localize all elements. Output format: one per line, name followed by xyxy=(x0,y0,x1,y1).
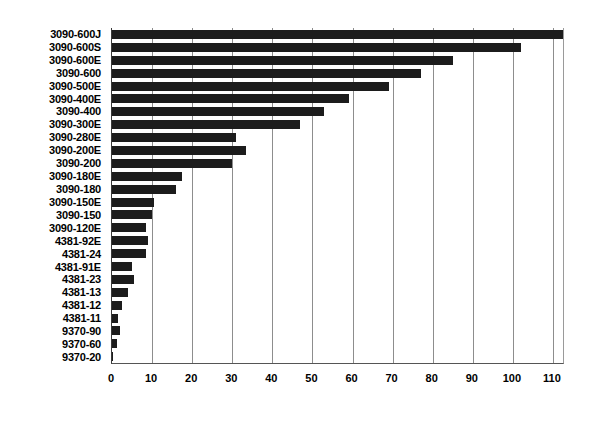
category-label: 3090-600E xyxy=(0,54,106,67)
bar xyxy=(112,262,132,271)
bar-row xyxy=(112,183,563,196)
bar xyxy=(112,172,182,181)
bar xyxy=(112,82,389,91)
bar xyxy=(112,339,117,348)
category-label: 4381-12 xyxy=(0,299,106,312)
bar xyxy=(112,120,300,129)
bar xyxy=(112,249,146,258)
bar-row xyxy=(112,157,563,170)
category-label: 3090-180 xyxy=(0,183,106,196)
x-tick-label: 70 xyxy=(385,372,397,384)
bar-series xyxy=(112,28,563,363)
category-label: 3090-120E xyxy=(0,222,106,235)
bar-row xyxy=(112,299,563,312)
bar-row xyxy=(112,221,563,234)
bar xyxy=(112,43,521,52)
bar xyxy=(112,198,154,207)
category-label: 3090-200E xyxy=(0,144,106,157)
category-label: 3090-600J xyxy=(0,28,106,41)
category-label: 4381-92E xyxy=(0,235,106,248)
bar-row xyxy=(112,41,563,54)
bar-row xyxy=(112,67,563,80)
bar xyxy=(112,159,232,168)
category-label: 3090-150E xyxy=(0,196,106,209)
bar xyxy=(112,94,349,103)
bar-row xyxy=(112,337,563,350)
x-tick-label: 40 xyxy=(265,372,277,384)
value-axis: 0102030405060708090100110 xyxy=(111,366,564,390)
category-label: 3090-600 xyxy=(0,67,106,80)
category-label: 3090-400E xyxy=(0,93,106,106)
category-label: 3090-400 xyxy=(0,106,106,119)
bar xyxy=(112,326,120,335)
bar xyxy=(112,69,421,78)
bar xyxy=(112,107,324,116)
bar-row xyxy=(112,196,563,209)
bar-row xyxy=(112,54,563,67)
x-tick-label: 80 xyxy=(426,372,438,384)
bar-row xyxy=(112,170,563,183)
plot-area xyxy=(111,28,564,364)
category-label: 3090-200 xyxy=(0,157,106,170)
bar-row xyxy=(112,324,563,337)
bar xyxy=(112,275,134,284)
category-label: 4381-13 xyxy=(0,286,106,299)
bar-row xyxy=(112,28,563,41)
x-tick-label: 10 xyxy=(145,372,157,384)
category-label: 3090-180E xyxy=(0,170,106,183)
category-label: 9370-90 xyxy=(0,325,106,338)
bar xyxy=(112,146,246,155)
bar xyxy=(112,236,148,245)
category-label: 3090-280E xyxy=(0,131,106,144)
bar-row xyxy=(112,273,563,286)
category-label: 3090-300E xyxy=(0,118,106,131)
x-tick-label: 0 xyxy=(108,372,114,384)
bar-row xyxy=(112,131,563,144)
bar xyxy=(112,185,176,194)
bar-chart: 3090-600J3090-600S3090-600E3090-6003090-… xyxy=(0,0,590,422)
category-label: 3090-500E xyxy=(0,80,106,93)
x-tick-label: 20 xyxy=(185,372,197,384)
bar-row xyxy=(112,312,563,325)
bar-row xyxy=(112,350,563,363)
category-axis-labels: 3090-600J3090-600S3090-600E3090-6003090-… xyxy=(0,28,106,364)
category-label: 4381-91E xyxy=(0,261,106,274)
bar-row xyxy=(112,105,563,118)
category-label: 3090-600S xyxy=(0,41,106,54)
bar-row xyxy=(112,144,563,157)
bar-row xyxy=(112,80,563,93)
bar-row xyxy=(112,234,563,247)
bar xyxy=(112,314,118,323)
x-tick-label: 60 xyxy=(345,372,357,384)
category-label: 9370-20 xyxy=(0,351,106,364)
bar xyxy=(112,223,146,232)
bar-row xyxy=(112,260,563,273)
category-label: 9370-60 xyxy=(0,338,106,351)
bar xyxy=(112,30,563,39)
x-tick-label: 100 xyxy=(503,372,521,384)
bar xyxy=(112,288,128,297)
bar xyxy=(112,56,453,65)
x-tick-label: 50 xyxy=(305,372,317,384)
bar-row xyxy=(112,92,563,105)
category-label: 4381-11 xyxy=(0,312,106,325)
x-tick-label: 110 xyxy=(543,372,561,384)
bar-row xyxy=(112,286,563,299)
x-tick-label: 30 xyxy=(225,372,237,384)
bar-row xyxy=(112,118,563,131)
bar xyxy=(112,301,122,310)
bar-row xyxy=(112,208,563,221)
category-label: 3090-150 xyxy=(0,209,106,222)
category-label: 4381-24 xyxy=(0,248,106,261)
bar xyxy=(112,133,236,142)
bar xyxy=(112,352,113,361)
x-tick-label: 90 xyxy=(466,372,478,384)
bar-row xyxy=(112,247,563,260)
category-label: 4381-23 xyxy=(0,274,106,287)
bar xyxy=(112,210,152,219)
